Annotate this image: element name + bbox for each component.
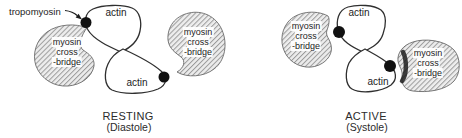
actin-label: actin: [348, 7, 369, 18]
figure-canvas: tropomyosin actin actin myosin cross -br…: [0, 0, 462, 138]
tropomyosin-dot: [159, 72, 170, 83]
myosin-label-line: myosin: [183, 27, 214, 37]
myosin-label-line: -bridge: [413, 68, 443, 78]
myosin-crossbridge-label: myosin cross -bridge: [413, 48, 444, 78]
actin-label: actin: [105, 7, 126, 18]
tropomyosin-label: tropomyosin: [9, 6, 61, 17]
myosin-label-line: cross: [416, 58, 440, 68]
panel-subtitle-systole: (Systole): [346, 121, 387, 133]
actin-label: actin: [126, 77, 147, 88]
diagram-artwork: [0, 0, 462, 138]
myosin-crossbridge-label: myosin cross -bridge: [183, 27, 214, 57]
tropomyosin-dot: [81, 17, 92, 28]
tropomyosin-dot: [333, 26, 345, 38]
myosin-crossbridge-label: myosin cross -bridge: [291, 21, 322, 51]
actin-label: actin: [367, 76, 388, 87]
panel-subtitle-diastole: (Diastole): [107, 121, 152, 133]
myosin-label-line: myosin: [413, 48, 444, 58]
myosin-label-line: cross: [186, 37, 210, 47]
myosin-label-line: -bridge: [291, 41, 321, 51]
myosin-label-line: cross: [55, 47, 79, 57]
myosin-crossbridge-label: myosin cross -bridge: [52, 37, 83, 67]
tropomyosin-dot: [384, 60, 396, 72]
myosin-label-line: myosin: [52, 37, 83, 47]
tropomyosin-pointer-arrow: [65, 11, 78, 16]
myosin-label-line: cross: [294, 31, 318, 41]
myosin-label-line: myosin: [291, 21, 322, 31]
myosin-label-line: -bridge: [52, 57, 82, 67]
myosin-label-line: -bridge: [183, 47, 213, 57]
